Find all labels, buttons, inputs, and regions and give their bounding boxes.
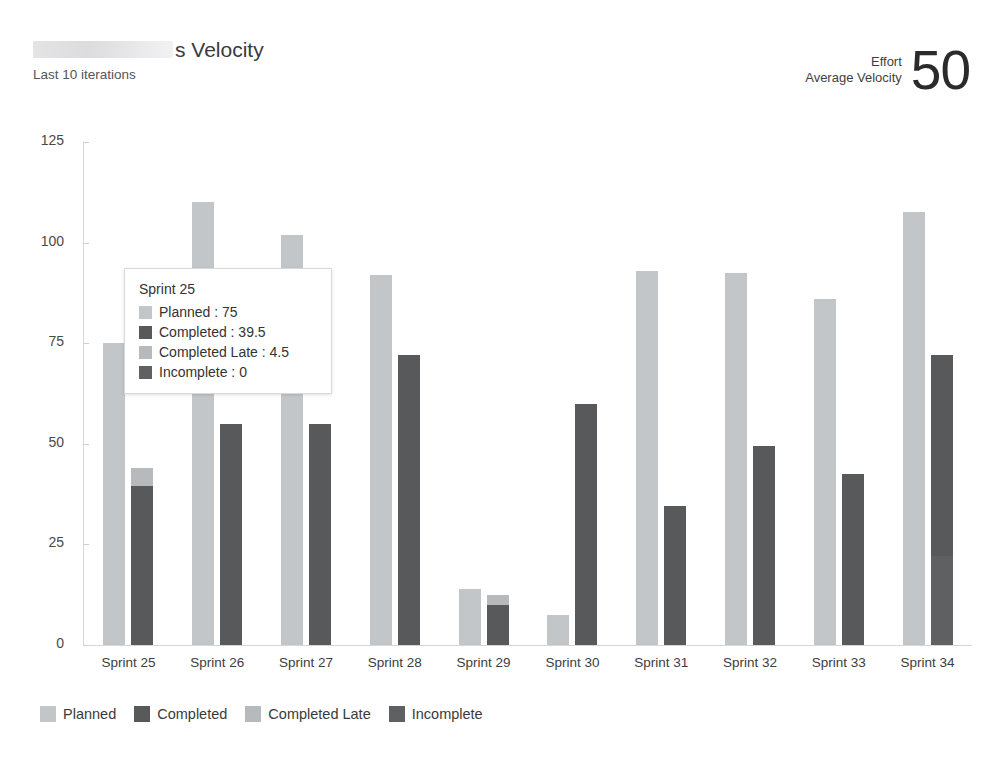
y-axis-tick-label: 0 (18, 635, 64, 651)
y-axis-tick-value: 75 (18, 333, 64, 349)
bar-actual-stack[interactable] (753, 446, 775, 645)
tooltip-row-label: Incomplete : 0 (159, 364, 247, 380)
bar-planned[interactable] (103, 343, 125, 645)
legend-item[interactable]: Incomplete (389, 706, 483, 722)
legend-item[interactable]: Completed Late (245, 706, 370, 722)
bar-planned[interactable] (547, 615, 569, 645)
tooltip-title: Sprint 25 (139, 281, 317, 297)
bar-group[interactable] (883, 142, 972, 645)
bar-segment-incomplete[interactable] (931, 556, 953, 645)
x-axis-label: Sprint 25 (84, 655, 173, 670)
bar-actual-stack[interactable] (575, 404, 597, 645)
bar-segment-completed-late[interactable] (131, 468, 153, 486)
bar-segment-completed[interactable] (309, 424, 331, 645)
y-axis-tick-mark (83, 645, 89, 646)
legend-swatch-icon (389, 706, 405, 722)
tooltip-swatch-icon (139, 366, 152, 379)
x-axis-label: Sprint 32 (706, 655, 795, 670)
y-axis-tick-value: 0 (18, 635, 64, 651)
x-axis-label: Sprint 27 (262, 655, 351, 670)
bar-segment-completed[interactable] (753, 446, 775, 645)
bar-actual-stack[interactable] (398, 355, 420, 645)
bar-segment-completed[interactable] (487, 605, 509, 645)
bar-group[interactable] (794, 142, 883, 645)
legend-label: Planned (63, 706, 116, 722)
legend-swatch-icon (245, 706, 261, 722)
tooltip-row-label: Completed : 39.5 (159, 324, 266, 340)
legend-label: Incomplete (412, 706, 483, 722)
x-axis-label: Sprint 34 (883, 655, 972, 670)
bar-planned[interactable] (636, 271, 658, 645)
y-axis-tick-label: 25 (18, 534, 64, 550)
tooltip-row: Incomplete : 0 (139, 364, 317, 380)
x-axis-label: Sprint 31 (617, 655, 706, 670)
legend-label: Completed Late (268, 706, 370, 722)
legend-swatch-icon (40, 706, 56, 722)
x-axis-label: Sprint 26 (173, 655, 262, 670)
x-axis-label: Sprint 29 (439, 655, 528, 670)
bar-planned[interactable] (814, 299, 836, 645)
bar-segment-completed[interactable] (398, 355, 420, 645)
x-axis-line (83, 645, 972, 646)
bar-actual-stack[interactable] (220, 424, 242, 645)
bar-planned[interactable] (459, 589, 481, 645)
x-axis-label: Sprint 28 (350, 655, 439, 670)
bar-segment-completed[interactable] (575, 404, 597, 645)
y-axis-tick-label: 100 (18, 233, 64, 249)
bar-group[interactable] (706, 142, 795, 645)
tooltip-row: Completed : 39.5 (139, 324, 317, 340)
chart-legend: PlannedCompletedCompleted LateIncomplete (40, 706, 501, 722)
legend-item[interactable]: Planned (40, 706, 116, 722)
bar-planned[interactable] (370, 275, 392, 645)
tooltip-row: Planned : 75 (139, 304, 317, 320)
bar-planned[interactable] (903, 212, 925, 645)
bar-actual-stack[interactable] (131, 468, 153, 645)
bar-group[interactable] (439, 142, 528, 645)
bar-segment-completed[interactable] (131, 486, 153, 645)
tooltip-rows: Planned : 75Completed : 39.5Completed La… (139, 304, 317, 380)
y-axis-tick-label: 50 (18, 434, 64, 450)
legend-item[interactable]: Completed (134, 706, 227, 722)
y-axis-tick-label: 125 (18, 132, 64, 148)
legend-label: Completed (157, 706, 227, 722)
tooltip-row-label: Planned : 75 (159, 304, 238, 320)
bar-group[interactable] (617, 142, 706, 645)
bar-planned[interactable] (725, 273, 747, 645)
bar-group[interactable] (350, 142, 439, 645)
bar-segment-completed[interactable] (931, 355, 953, 556)
bar-tooltip: Sprint 25 Planned : 75Completed : 39.5Co… (124, 268, 332, 394)
tooltip-swatch-icon (139, 346, 152, 359)
tooltip-row-label: Completed Late : 4.5 (159, 344, 289, 360)
legend-swatch-icon (134, 706, 150, 722)
y-axis-tick-value: 50 (18, 434, 64, 450)
bar-actual-stack[interactable] (931, 355, 953, 645)
tooltip-swatch-icon (139, 306, 152, 319)
bar-segment-completed[interactable] (220, 424, 242, 645)
x-axis-label: Sprint 30 (528, 655, 617, 670)
y-axis-tick-value: 25 (18, 534, 64, 550)
tooltip-swatch-icon (139, 326, 152, 339)
bar-segment-completed-late[interactable] (487, 595, 509, 605)
y-axis-tick-value: 125 (18, 132, 64, 148)
y-axis-tick-label: 75 (18, 333, 64, 349)
bar-group[interactable] (528, 142, 617, 645)
bar-actual-stack[interactable] (309, 424, 331, 645)
y-axis-tick-value: 100 (18, 233, 64, 249)
velocity-widget: s Velocity Last 10 iterations Effort Ave… (0, 0, 995, 765)
bar-segment-completed[interactable] (664, 506, 686, 645)
bar-actual-stack[interactable] (487, 595, 509, 645)
bar-actual-stack[interactable] (664, 506, 686, 645)
bar-actual-stack[interactable] (842, 474, 864, 645)
x-axis-label: Sprint 33 (794, 655, 883, 670)
bar-segment-completed[interactable] (842, 474, 864, 645)
tooltip-row: Completed Late : 4.5 (139, 344, 317, 360)
